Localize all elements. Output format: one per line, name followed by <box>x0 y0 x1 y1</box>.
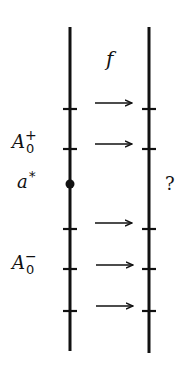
lower-set-base: A <box>12 252 25 273</box>
lower-set-sub: 0 <box>26 263 34 276</box>
point-label-sup: * <box>29 168 36 184</box>
upper-set-sup: + <box>25 128 37 142</box>
lower-set-sup: − <box>25 249 37 263</box>
upper-set-base: A <box>12 131 25 152</box>
point-label: a* <box>17 173 36 191</box>
unknown-image-label: ? <box>165 175 175 193</box>
lower-set-label: A−0 <box>12 254 35 272</box>
upper-set-sub: 0 <box>26 142 34 155</box>
upper-set-label: A+0 <box>12 133 35 151</box>
point-label-base: a <box>17 171 28 192</box>
mapping-arrows <box>95 103 133 306</box>
marked-point-dot <box>66 180 75 189</box>
map-label-f: f <box>106 49 113 69</box>
